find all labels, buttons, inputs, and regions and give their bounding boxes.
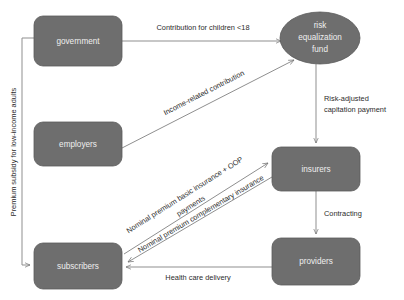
edge-subscribers-to-insurers-basic: Nominal premium basic insurance + OOP pa… [124, 155, 268, 254]
edge-government-to-subscribers-subsidy: Premium subsidy for low-income adults [9, 38, 34, 265]
diagram-svg: Contribution for children <18 Income-rel… [0, 0, 404, 300]
edge-employers-to-fund: Income-related contribution [122, 60, 294, 148]
node-fund-label-line1: risk [314, 21, 328, 30]
node-risk-equalization-fund[interactable]: risk equalization fund [280, 12, 360, 64]
node-insurers-label: insurers [301, 165, 330, 174]
node-subscribers-label: subscribers [57, 262, 99, 271]
edge-label-contribution-children: Contribution for children <18 [156, 23, 249, 32]
edge-providers-to-subscribers: Health care delivery [126, 267, 272, 282]
edge-label-contracting: Contracting [324, 209, 362, 218]
node-fund-label-line2: equalization [298, 33, 342, 42]
edge-label-health-care-delivery: Health care delivery [165, 273, 231, 282]
node-employers-label: employers [59, 140, 97, 149]
edge-label-premium-subsidy: Premium subsidy for low-income adults [9, 87, 18, 216]
node-providers[interactable]: providers [272, 238, 360, 285]
edge-fund-to-insurers: Risk-adjusted capitation payment [316, 64, 386, 143]
node-government[interactable]: government [34, 16, 122, 66]
node-subscribers[interactable]: subscribers [34, 243, 122, 289]
node-fund-label-line3: fund [312, 45, 328, 54]
node-employers[interactable]: employers [34, 122, 122, 166]
edge-government-to-fund: Contribution for children <18 [122, 23, 281, 41]
edge-insurers-to-providers: Contracting [316, 191, 362, 234]
node-insurers[interactable]: insurers [272, 147, 360, 191]
edge-label-risk-adjusted-line1: Risk-adjusted [324, 94, 369, 103]
node-providers-label: providers [299, 257, 333, 266]
edge-label-risk-adjusted-line2: capitation payment [324, 105, 386, 114]
node-government-label: government [56, 37, 100, 46]
edge-label-income-related-contribution: Income-related contribution [162, 68, 246, 117]
diagram-canvas: Contribution for children <18 Income-rel… [0, 0, 404, 300]
